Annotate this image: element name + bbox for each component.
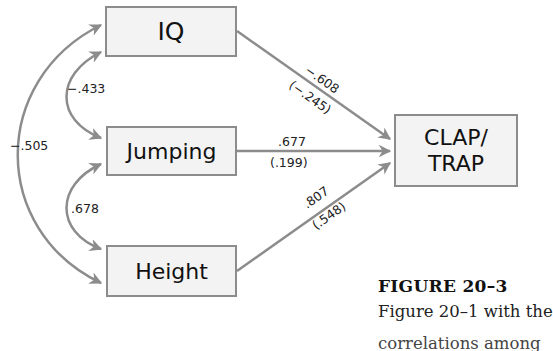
node-clap-trap-label-line2: TRAP — [428, 151, 484, 177]
node-height: Height — [106, 245, 237, 297]
figure-caption-body: Figure 20–1 with the — [378, 302, 553, 321]
node-iq: IQ — [105, 6, 237, 57]
node-jumping-label: Jumping — [127, 139, 217, 164]
std-coef-label-jumping: (.199) — [270, 155, 308, 170]
corr-label-iq-jumping: −.433 — [67, 81, 105, 96]
node-height-label: Height — [135, 259, 208, 284]
corr-label-jumping-height: .678 — [71, 201, 99, 216]
coef-label-jumping: .677 — [278, 134, 306, 149]
corr-label-iq-height: −.505 — [10, 138, 48, 153]
node-iq-label: IQ — [157, 17, 184, 46]
path-arrow-iq-clap — [237, 31, 390, 139]
node-jumping: Jumping — [106, 126, 237, 176]
figure-caption-title: FIGURE 20–3 — [378, 276, 508, 296]
figure-caption-cut-line: correlations among — [378, 334, 541, 351]
node-clap-trap-label-line1: CLAP/ — [424, 125, 488, 151]
node-clap-trap: CLAP/ TRAP — [394, 114, 518, 187]
